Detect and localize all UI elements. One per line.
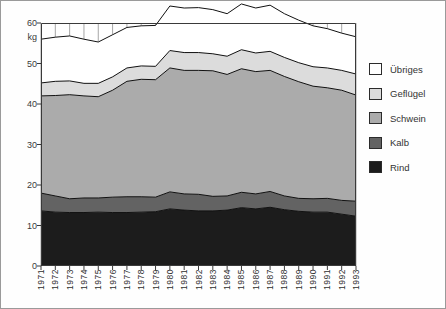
legend-item[interactable]: Übriges [369,63,443,75]
x-axis-tick-label: 1991 [322,269,332,290]
x-axis-tick-label: 1990 [308,269,318,290]
y-axis-unit-label: kg [27,32,37,42]
y-axis-tick-label: 30 [27,140,37,150]
legend-swatch [369,137,382,149]
x-axis-tick-label: 1987 [265,269,275,290]
figure-container: kg 6050403020100 19711972197319741975197… [0,0,446,309]
x-axis-tick-label: 1992 [337,269,347,290]
y-axis-tick-label: 60 [27,18,37,28]
x-axis-tick-label: 1982 [194,269,204,290]
x-axis-tick-label: 1981 [179,269,189,290]
y-axis-tick-label: 40 [27,99,37,109]
x-axis-tick-label: 1973 [65,269,75,290]
legend-item[interactable]: Geflügel [369,88,443,100]
legend-label: Rind [390,162,410,173]
x-axis-tick-label: 1971 [36,269,46,290]
y-axis: kg 6050403020100 [1,23,37,266]
y-axis-tick-label: 20 [27,180,37,190]
legend-swatch [369,161,382,173]
x-axis-tick-label: 1975 [93,269,103,290]
chart-legend: ÜbrigesGeflügelSchweinKalbRind [369,63,443,186]
x-axis: 1971197219731974197519761977197819791980… [41,269,356,309]
top-note [97,0,217,6]
x-axis-tick-label: 1988 [279,269,289,290]
x-axis-tick-label: 1974 [79,269,89,290]
stacked-area-chart [41,23,356,272]
y-axis-tick-label: 50 [27,59,37,69]
x-axis-tick-label: 1979 [151,269,161,290]
x-axis-tick-label: 1976 [108,269,118,290]
legend-swatch [369,112,382,124]
y-axis-tick-marks [37,23,41,266]
plot-area [41,23,356,266]
legend-swatch [369,63,382,75]
legend-item[interactable]: Kalb [369,137,443,149]
legend-label: Kalb [390,137,409,148]
x-axis-tick-label: 1989 [294,269,304,290]
x-axis-tick-label: 1972 [50,269,60,290]
x-axis-tick-label: 1984 [222,269,232,290]
x-axis-tick-label: 1983 [208,269,218,290]
legend-label: Übriges [390,64,423,75]
y-axis-tick-label: 10 [27,221,37,231]
legend-swatch [369,88,382,100]
legend-label: Geflügel [390,88,425,99]
x-axis-tick-label: 1986 [251,269,261,290]
legend-item[interactable]: Rind [369,161,443,173]
legend-label: Schwein [390,113,426,124]
x-axis-tick-label: 1980 [165,269,175,290]
x-axis-tick-label: 1993 [351,269,361,290]
x-axis-tick-label: 1978 [136,269,146,290]
x-axis-tick-label: 1985 [236,269,246,290]
area-series-rind [41,207,356,266]
x-axis-tick-label: 1977 [122,269,132,290]
legend-item[interactable]: Schwein [369,112,443,124]
